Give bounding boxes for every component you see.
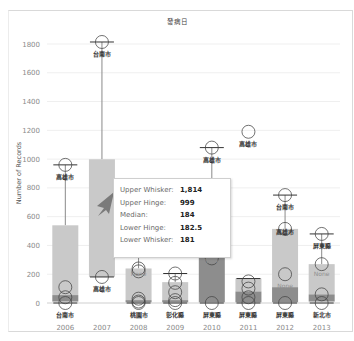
box-2013[interactable]: 屏東縣None新北市 [309,227,335,319]
box-2012[interactable]: 台南市高雄市None屏東縣 [272,189,298,319]
point-label: None [204,257,220,264]
point-label: 高雄市 [203,156,221,164]
x-axis-ticks: 20062007200820092010201120122013 [56,324,330,332]
x-tick-label: 2008 [130,324,148,332]
x-tick-label: 2009 [166,324,184,332]
box-lower[interactable] [272,287,298,302]
box-2011[interactable]: 高雄市屏東縣 [235,125,261,319]
point-label: 台南市 [56,311,74,319]
box-upper[interactable] [52,225,78,295]
tooltip-row-lower-hinge: Lower Hinge:182.5 [120,222,224,235]
box-lower[interactable] [162,300,188,302]
point-label: 新北市 [313,311,331,319]
y-tick-label: 1800 [22,41,40,49]
y-tick-label: 400 [27,242,40,250]
point-label: 彰化縣 [166,311,184,319]
x-tick-label: 2012 [276,324,294,332]
y-tick-label: 1400 [22,98,40,106]
box-upper[interactable] [235,279,261,292]
y-tick-label: 1200 [22,127,40,135]
data-point-circle[interactable] [242,125,255,138]
point-label: 高雄市 [93,285,111,293]
point-label: 屏東縣 [202,311,221,319]
point-label: 屏東縣 [238,311,257,319]
y-tick-label: 1600 [22,69,40,77]
tooltip-row-lower-whisker: Lower Whisker:181 [120,234,224,247]
x-tick-label: 2011 [240,324,258,332]
y-tick-label: 0 [36,300,40,308]
y-axis-ticks: 020040060080010001200140016001800 [22,41,40,308]
point-label: 台南市 [93,50,111,58]
point-label: 高雄市 [56,173,74,181]
tooltip-row-upper-whisker: Upper Whisker:1,814 [120,184,224,197]
point-label: None [314,270,330,277]
box-upper[interactable] [309,264,335,294]
box-upper[interactable] [162,282,188,300]
chart-title: 發病日 [167,17,188,26]
point-label: 高雄市 [276,228,294,236]
box-upper[interactable] [89,159,115,276]
point-label: 屏東縣 [312,242,331,250]
point-label: 高雄市 [239,140,257,148]
tooltip-row-median: Median:184 [120,209,224,222]
point-label: None [131,270,147,277]
point-label: 台南市 [276,203,294,211]
box-upper[interactable] [272,229,298,287]
x-tick-label: 2006 [56,324,74,332]
point-label: None [277,282,293,289]
y-tick-label: 600 [27,213,40,221]
point-label: 桃園市 [130,311,148,319]
box-2006[interactable]: 高雄市台南市 [52,158,78,319]
box-lower[interactable] [126,300,152,302]
tooltip-row-upper-hinge: Upper Hinge:999 [120,197,224,210]
x-tick-label: 2010 [203,324,221,332]
y-tick-label: 200 [27,271,40,279]
x-tick-label: 2007 [93,324,111,332]
y-axis-label: Number of Records [15,141,23,204]
box-2007[interactable]: 台南市高雄市 [89,35,115,292]
y-tick-label: 1000 [22,156,40,164]
tooltip: Upper Whisker:1,814 Upper Hinge:999 Medi… [113,178,231,258]
point-label: 屏東縣 [275,311,294,319]
box-plot-chart: 發病日 Number of Records 020040060080010001… [0,0,354,341]
x-tick-label: 2013 [313,324,331,332]
y-tick-label: 800 [27,184,40,192]
box-2009[interactable]: 彰化縣 [162,267,188,319]
